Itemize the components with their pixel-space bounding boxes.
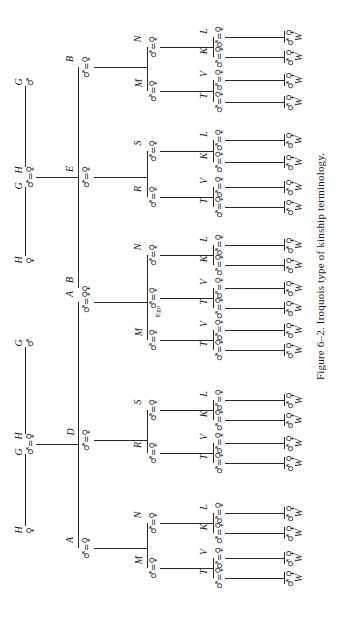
great-grandchild-label: W	[294, 346, 304, 354]
descent-line	[225, 288, 284, 289]
great-grandchild-label: W	[294, 304, 304, 312]
ego-label: Ego	[155, 306, 162, 317]
married-couple-icon: ♂=♀	[215, 278, 224, 299]
great-grandchild-label: W	[294, 326, 304, 334]
grandchild-label: K	[199, 411, 209, 418]
married-couple-icon: ♂=♀	[215, 235, 224, 256]
grandparent-label: G	[14, 339, 24, 346]
descent-line	[225, 265, 284, 266]
married-couple-icon: ♂=♀	[215, 568, 224, 589]
parent-label: D	[66, 428, 76, 435]
caption-text: Figure 6–2. Iroquois type of kinship ter…	[313, 160, 327, 380]
descent-line	[94, 67, 147, 68]
married-couple-icon: ♂=♀	[215, 47, 224, 68]
child-label: S	[133, 400, 143, 405]
descent-line	[36, 177, 78, 178]
grandchild-label: K	[199, 524, 209, 531]
grandchild-label: K	[199, 153, 209, 160]
female-icon: ♀	[26, 527, 35, 534]
grandparent-label: G	[14, 78, 24, 85]
descent-line	[25, 347, 26, 434]
grandchild-label: T	[199, 198, 209, 204]
married-couple-icon: ♂=♀	[149, 558, 158, 579]
descent-line	[225, 420, 284, 421]
grandchild-label: V	[199, 178, 209, 184]
married-couple-icon: ♂=♀	[215, 390, 224, 411]
parent-label: B	[65, 277, 75, 283]
parent-label: E	[65, 166, 75, 172]
grandparent-label: H	[14, 166, 24, 173]
married-couple-icon: ♂=♀	[215, 548, 224, 569]
grandchild-label: L	[199, 236, 209, 242]
child-label: S	[133, 141, 143, 146]
married-couple-icon: ♂=♀	[215, 453, 224, 474]
married-couple-icon: ♂=♀	[26, 167, 35, 188]
great-grandchild-label: W	[294, 416, 304, 424]
kinship-diagram: G♂HGH♀G♂HGH♀♂=♀♂=♀B♂=♀E♂=♀B♀A♂=♀D♂=♀A♂=♀…	[0, 0, 342, 620]
great-grandchild-label: W	[294, 554, 304, 562]
descent-line	[225, 533, 284, 534]
great-grandchild-label: W	[294, 241, 304, 249]
married-couple-icon: ♂=♀	[82, 538, 91, 559]
grandchild-label: V	[199, 71, 209, 77]
grandchild-label: L	[199, 391, 209, 397]
descent-line	[225, 558, 284, 559]
married-couple-icon: ♂=♀	[215, 255, 224, 276]
married-couple-icon: ♂=♀	[215, 130, 224, 151]
married-couple-icon: ♂=♀	[149, 513, 158, 534]
grandchild-label: T	[199, 454, 209, 460]
descent-line	[25, 187, 26, 256]
grandchild-label: T	[199, 569, 209, 575]
married-couple-icon: ♂=♀	[215, 340, 224, 361]
grandchild-label: V	[199, 549, 209, 555]
child-label: M	[134, 79, 144, 87]
child-label: R	[133, 186, 143, 192]
married-couple-icon: ♂=♀	[149, 141, 158, 162]
descent-line	[25, 454, 26, 526]
great-grandchild-label: W	[294, 439, 304, 447]
child-label: N	[133, 244, 143, 251]
descent-line	[94, 440, 147, 441]
great-grandchild-label: W	[294, 33, 304, 41]
great-grandchild-label: W	[294, 284, 304, 292]
married-couple-icon: ♂=♀	[149, 37, 158, 58]
grandparent-label: G	[14, 182, 24, 189]
descent-line	[94, 177, 147, 178]
married-couple-icon: ♂=♀	[82, 292, 91, 313]
descent-line	[225, 245, 284, 246]
married-couple-icon: ♂=♀	[149, 245, 158, 266]
married-couple-icon: ♂=♀	[215, 70, 224, 91]
married-couple-icon: ♂=♀	[149, 330, 158, 351]
married-couple-icon: ♂=♀	[215, 503, 224, 524]
child-label: M	[134, 556, 144, 564]
great-grandchild-label: W	[294, 574, 304, 582]
grandchild-label: L	[199, 131, 209, 137]
great-grandchild-label: W	[294, 261, 304, 269]
married-couple-icon: ♂=♀	[82, 57, 91, 78]
descent-line	[225, 207, 284, 208]
descent-line	[225, 187, 284, 188]
married-couple-icon: ♂=♀	[215, 92, 224, 113]
great-grandchild-label: W	[294, 53, 304, 61]
descent-line	[225, 308, 284, 309]
descent-line	[36, 444, 78, 445]
great-grandchild-label: W	[294, 529, 304, 537]
descent-line	[225, 350, 284, 351]
descent-line	[225, 80, 284, 81]
married-couple-icon: ♂=♀	[82, 167, 91, 188]
grandchild-label: K	[199, 48, 209, 55]
sibling-line	[78, 302, 79, 548]
sibling-line	[78, 67, 79, 288]
grandparent-label: H	[14, 432, 24, 439]
male-icon: ♂	[26, 79, 35, 86]
married-couple-icon: ♂=♀	[215, 523, 224, 544]
great-grandchild-label: W	[294, 136, 304, 144]
descent-line	[225, 578, 284, 579]
descent-line	[225, 463, 284, 464]
married-couple-icon: ♂=♀	[149, 187, 158, 208]
male-icon: ♂	[26, 340, 35, 347]
grandchild-label: T	[199, 93, 209, 99]
descent-line	[225, 102, 284, 103]
descent-line	[225, 57, 284, 58]
grandchild-label: T	[199, 341, 209, 347]
